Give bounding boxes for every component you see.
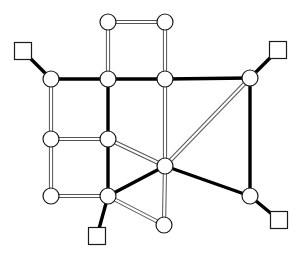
node-circle[interactable] (43, 188, 59, 204)
node-circle[interactable] (157, 71, 173, 87)
edge-thick (165, 78, 250, 79)
edge-thin (108, 196, 164, 225)
node-square[interactable] (271, 212, 288, 229)
node-circle[interactable] (43, 71, 59, 87)
node-circle[interactable] (242, 70, 258, 86)
edge-thick (165, 166, 250, 196)
node-circle[interactable] (156, 217, 172, 233)
edge-thick (108, 166, 165, 196)
edge-layer (23, 22, 279, 236)
edge-thin (164, 166, 165, 225)
edge-thin (108, 139, 165, 166)
graph-diagram (0, 0, 301, 256)
edge-thin (165, 78, 250, 166)
node-circle[interactable] (242, 188, 258, 204)
node-circle[interactable] (100, 71, 116, 87)
node-square[interactable] (270, 42, 287, 59)
node-circle[interactable] (100, 131, 116, 147)
node-circle[interactable] (100, 14, 116, 30)
node-circle[interactable] (157, 158, 173, 174)
node-circle[interactable] (157, 14, 173, 30)
node-layer (15, 14, 288, 245)
node-circle[interactable] (100, 188, 116, 204)
graph-canvas (0, 0, 301, 256)
node-square[interactable] (89, 228, 106, 245)
node-circle[interactable] (43, 131, 59, 147)
node-square[interactable] (15, 43, 32, 60)
